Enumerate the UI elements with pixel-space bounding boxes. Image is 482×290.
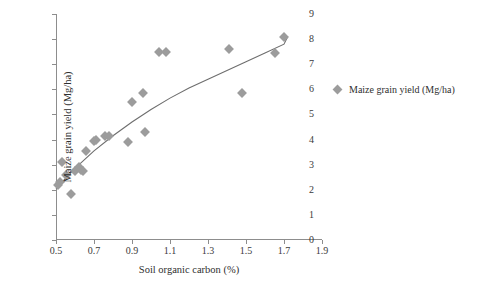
y-tick-mark	[52, 215, 56, 216]
y-axis-line	[56, 14, 57, 240]
y-tick-mark	[52, 39, 56, 40]
x-axis-line	[56, 239, 322, 240]
y-tick-label: 7	[309, 59, 314, 69]
y-tick-label: 6	[309, 84, 314, 94]
y-tick-label: 5	[309, 109, 314, 119]
legend-label: Maize grain yield (Mg/ha)	[349, 84, 455, 95]
x-tick-mark	[208, 240, 209, 244]
data-point	[127, 97, 137, 107]
data-point	[138, 88, 148, 98]
trendline	[56, 14, 322, 240]
y-tick-label: 1	[309, 210, 314, 220]
data-point	[224, 44, 234, 54]
y-tick-label: 0	[309, 235, 314, 245]
data-point	[279, 32, 289, 42]
x-tick-mark	[94, 240, 95, 244]
y-tick-mark	[52, 114, 56, 115]
y-tick-label: 3	[309, 160, 314, 170]
y-tick-mark	[52, 190, 56, 191]
data-point	[161, 47, 171, 57]
y-tick-mark	[52, 64, 56, 65]
x-tick-label: 1.1	[155, 246, 185, 256]
x-tick-label: 1.7	[269, 246, 299, 256]
x-tick-mark	[322, 240, 323, 244]
x-tick-label: 0.5	[41, 246, 71, 256]
y-axis-title: Maize grain yield (Mg/ha)	[62, 71, 73, 182]
x-tick-mark	[284, 240, 285, 244]
scatter-chart: 0123456789 0.50.70.91.11.31.51.71.9 Maiz…	[0, 0, 482, 290]
x-tick-mark	[246, 240, 247, 244]
x-tick-label: 0.7	[79, 246, 109, 256]
x-tick-label: 1.9	[307, 246, 337, 256]
chart-legend: Maize grain yield (Mg/ha)	[332, 84, 455, 95]
legend-marker-icon	[333, 85, 343, 95]
y-tick-mark	[52, 165, 56, 166]
y-tick-mark	[52, 14, 56, 15]
y-tick-label: 4	[309, 135, 314, 145]
data-point	[66, 189, 76, 199]
data-point	[140, 127, 150, 137]
y-tick-mark	[52, 140, 56, 141]
y-tick-label: 9	[309, 9, 314, 19]
x-axis-title: Soil organic carbon (%)	[56, 264, 322, 275]
y-tick-label: 8	[309, 34, 314, 44]
x-tick-mark	[170, 240, 171, 244]
x-tick-label: 1.3	[193, 246, 223, 256]
y-tick-mark	[52, 89, 56, 90]
data-point	[237, 88, 247, 98]
x-tick-mark	[56, 240, 57, 244]
y-tick-label: 2	[309, 185, 314, 195]
x-tick-mark	[132, 240, 133, 244]
data-point	[270, 48, 280, 58]
x-tick-label: 1.5	[231, 246, 261, 256]
data-point	[81, 146, 91, 156]
x-tick-label: 0.9	[117, 246, 147, 256]
data-point	[123, 137, 133, 147]
plot-area: 0123456789 0.50.70.91.11.31.51.71.9 Maiz…	[56, 14, 322, 240]
